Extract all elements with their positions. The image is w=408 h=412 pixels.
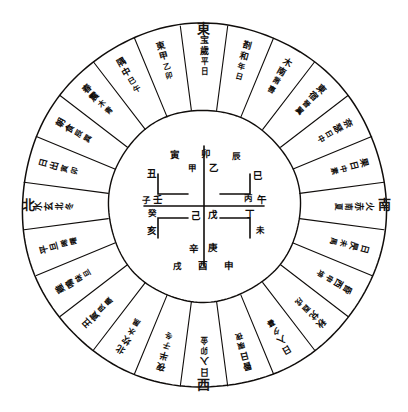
inner-stem-ren: 壬 xyxy=(153,195,163,205)
sector-glyph: 冬 xyxy=(66,203,74,210)
sector-glyph-stack: 火赤南夏 xyxy=(334,202,374,211)
sector-glyph: 南 xyxy=(344,203,352,210)
inner-branch-wei: 未 xyxy=(256,226,265,235)
sector-glyph: 卯 xyxy=(201,346,208,354)
inner-branch-zi: 子 xyxy=(142,196,151,205)
sector-glyph: 年 xyxy=(237,62,246,72)
sector-glyph: 火 xyxy=(365,202,374,211)
sector-glyph: 歲 xyxy=(200,47,209,56)
sector-glyph: 申 xyxy=(323,273,333,283)
sector-glyph: 未 xyxy=(338,239,348,248)
sector-glyph: 夕 xyxy=(271,325,281,335)
inner-branch-shen: 申 xyxy=(224,261,234,271)
inner-branch-wu: 午 xyxy=(257,195,267,205)
sector-glyph-stack: 日入卯金 xyxy=(200,336,209,376)
sector-glyph: 日 xyxy=(201,68,208,76)
inner-branch-si: 巳 xyxy=(253,171,263,181)
inner-stem-jia: 甲 xyxy=(188,164,197,173)
inner-branch-yin: 寅 xyxy=(170,150,180,160)
sector-glyph-stack: 水玄北冬 xyxy=(34,202,74,211)
inner-branch-hai: 亥 xyxy=(147,226,157,236)
ring-group xyxy=(22,23,386,387)
inner-stem-geng: 庚 xyxy=(208,243,218,253)
sector-glyph: 金 xyxy=(201,336,208,344)
sector-glyph: 日 xyxy=(234,72,243,82)
inner-stem-ding: 丁 xyxy=(245,209,255,219)
cardinal-label-west: 西 xyxy=(188,378,218,391)
sector-glyph: 冬 xyxy=(165,331,174,341)
sector-glyph: 水 xyxy=(34,202,43,211)
sector-glyph: 宝 xyxy=(200,36,209,45)
sector-glyph: 赤 xyxy=(354,202,363,211)
inner-branch-chen: 辰 xyxy=(232,152,241,161)
inner-branch-you: 酉 xyxy=(198,261,208,271)
cosmological-wheel-diagram: 東 西 北 南 宝歲平日剳和年日木南黹軎東宿晉翼奈瑟日中果日中素火赤南夏日昃未禺… xyxy=(0,0,408,412)
sector-glyph: 日 xyxy=(238,350,249,361)
sector-glyph: 暮 xyxy=(266,317,276,327)
sector-glyph: 夏 xyxy=(334,203,342,210)
inner-stem-ji: 己 xyxy=(191,211,201,221)
inner-stem-yi: 乙 xyxy=(209,163,219,173)
sector-glyph: 子 xyxy=(162,340,171,350)
cardinal-label-east: 東 xyxy=(188,22,218,35)
sector-glyph: 昬 xyxy=(241,360,252,371)
cardinal-label-south: 南 xyxy=(372,198,396,211)
sector-glyph: 暝 xyxy=(237,340,246,350)
inner-stem-gui: 癸 xyxy=(148,209,157,218)
sector-glyph: 中 xyxy=(338,164,348,173)
inner-stem-xin: 辛 xyxy=(189,244,199,254)
inner-branch-xu: 戌 xyxy=(173,262,182,271)
inner-stem-wu-earth: 戊 xyxy=(208,210,218,220)
sector-glyph: 昃 xyxy=(348,240,359,251)
sector-glyph: 日 xyxy=(200,367,209,376)
sector-glyph: 北 xyxy=(56,203,64,210)
sector-glyph: 平 xyxy=(201,58,208,66)
inner-branch-chou: 丑 xyxy=(147,169,157,179)
inner-stem-bing: 丙 xyxy=(244,194,253,203)
sector-glyph: 夜 xyxy=(234,331,243,341)
sector-glyph: 曙 xyxy=(70,236,80,245)
sector-glyph: 禺 xyxy=(329,236,339,245)
sector-glyph: 晞 xyxy=(60,239,70,248)
sector-glyph: 入 xyxy=(200,356,209,365)
sector-glyph: 素 xyxy=(329,167,339,176)
sector-glyph-stack: 宝歲平日 xyxy=(200,36,209,76)
sector-glyph: 日 xyxy=(358,243,369,254)
sector-glyph: 坤 xyxy=(315,268,325,278)
inner-branch-mao: 卯 xyxy=(201,149,211,159)
sector-glyph: 玄 xyxy=(45,202,54,211)
